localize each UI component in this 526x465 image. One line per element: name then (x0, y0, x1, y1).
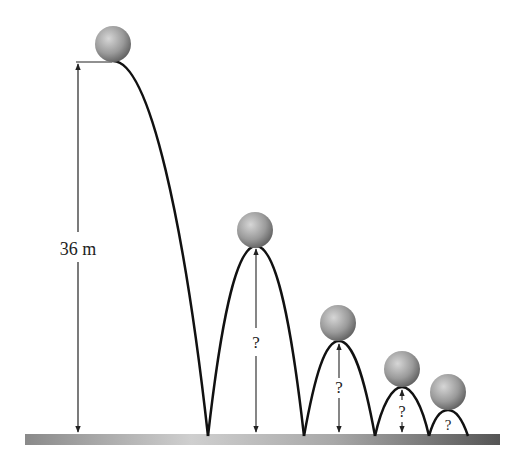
bounce-3-height-label: ? (398, 403, 405, 420)
bounce-1-height-label: ? (252, 333, 260, 352)
trajectory-drop (112, 61, 208, 436)
ball-bounce-1 (237, 212, 273, 248)
ball-bounce-4 (430, 374, 466, 410)
bounce-2-height-label: ? (335, 378, 343, 397)
ball-bounce-3 (384, 351, 420, 387)
bouncing-ball-diagram: 36 m ? ? ? ? (0, 0, 526, 465)
ball-initial (95, 26, 131, 62)
ball-bounce-2 (320, 305, 356, 341)
initial-height-label: 36 m (60, 239, 97, 259)
bounce-4-height-label: ? (445, 417, 452, 433)
